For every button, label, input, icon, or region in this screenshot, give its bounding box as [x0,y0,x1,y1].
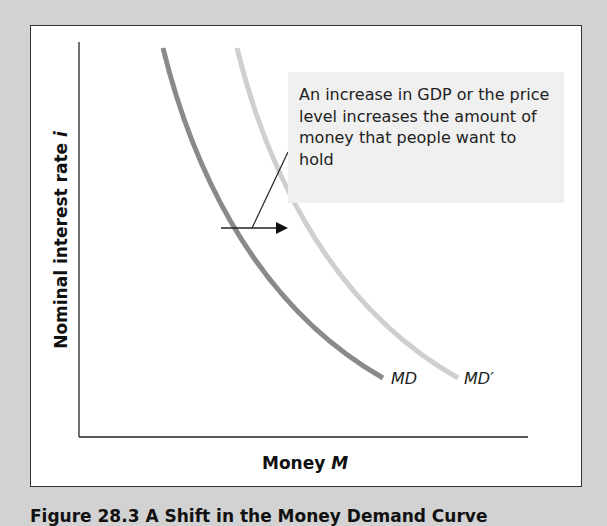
x-axis-label: Money M [262,453,348,473]
y-axis-label-text: Nominal interest rate [51,137,71,349]
y-axis-label: Nominal interest rate i [51,131,71,349]
figure-caption: Figure 28.3 A Shift in the Money Demand … [30,506,487,526]
x-axis-symbol: M [331,453,348,473]
md-prime-label: MD′ [464,369,494,388]
annotation-box: An increase in GDP or the price level in… [288,72,564,203]
md-label: MD [391,369,417,388]
annotation-leader-line [252,152,288,228]
annotation-text: An increase in GDP or the price level in… [299,85,549,169]
arrowhead-icon [276,222,288,234]
y-axis-symbol: i [51,131,71,137]
x-axis-label-text: Money [262,453,331,473]
